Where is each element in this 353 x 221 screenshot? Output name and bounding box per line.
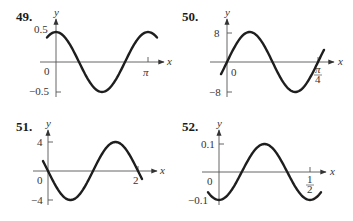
y-axis-label: y (53, 6, 59, 18)
x-tick-2: 2 (133, 174, 139, 186)
problem-number-51: 51. (16, 119, 32, 134)
y-axis-label: y (224, 6, 230, 18)
graph-canvas: 49. y x 0.5 −0.5 0 π 50. y x 8 −8 0 π 4 … (0, 0, 353, 221)
x-axis-label: x (337, 55, 343, 67)
origin-label: 0 (231, 66, 237, 78)
graph-52: 52. y x 0.1 −0.1 0 1 2 (182, 117, 335, 206)
y-tick-top: 4 (37, 136, 43, 148)
graph-51: 51. y x 4 −4 0 2 (16, 117, 165, 206)
y-tick-bottom: −0.1 (188, 194, 208, 206)
graph-50: 50. y x 8 −8 0 π 4 (182, 6, 343, 98)
svg-text:2: 2 (307, 183, 313, 195)
x-tick-one-half: 1 2 (306, 173, 314, 195)
origin-label: 0 (207, 175, 213, 187)
y-tick-bottom: −0.5 (29, 85, 49, 97)
y-tick-bottom: −4 (31, 194, 43, 206)
y-axis-label: y (45, 117, 51, 129)
y-tick-top: 8 (214, 27, 220, 39)
y-axis-label: y (216, 117, 222, 129)
problem-number-49: 49. (16, 9, 32, 24)
origin-label: 0 (37, 174, 43, 186)
x-tick-pi: π (143, 66, 149, 78)
svg-text:4: 4 (315, 73, 321, 85)
y-tick-top: 0.5 (34, 23, 48, 35)
problem-number-50: 50. (182, 9, 198, 24)
x-axis-label: x (159, 164, 165, 176)
problem-number-52: 52. (182, 119, 198, 134)
origin-label: 0 (44, 65, 50, 77)
graph-49: 49. y x 0.5 −0.5 0 π (16, 6, 172, 97)
y-tick-top: 0.1 (201, 138, 215, 150)
x-axis-label: x (329, 165, 335, 177)
y-tick-bottom: −8 (209, 86, 221, 98)
x-axis-label: x (166, 55, 172, 67)
